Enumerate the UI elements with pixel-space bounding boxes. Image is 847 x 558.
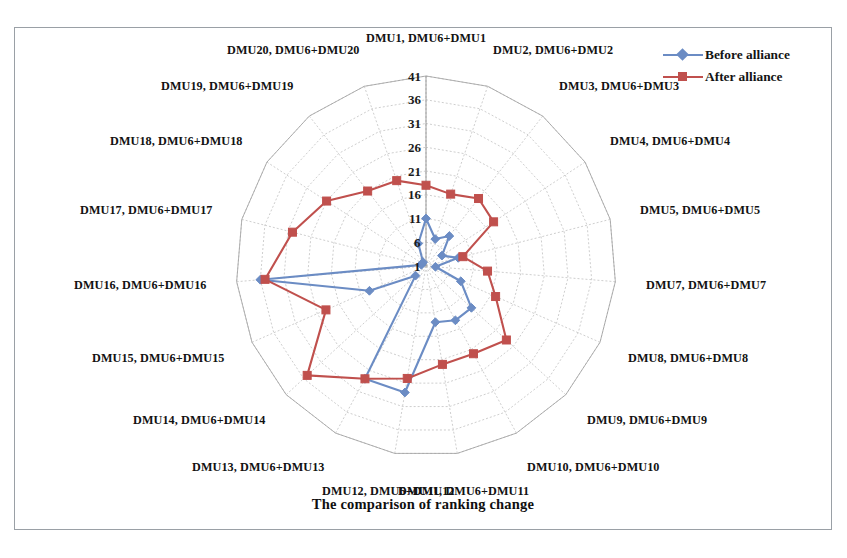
legend-label: After alliance bbox=[705, 69, 782, 85]
legend-swatch-square-icon bbox=[663, 70, 703, 84]
axis-label-15: DMU16, DMU6+DMU16 bbox=[74, 279, 207, 291]
data-point bbox=[490, 218, 498, 226]
data-point bbox=[422, 214, 431, 223]
data-point bbox=[322, 306, 330, 314]
data-point bbox=[459, 253, 467, 261]
legend-label: Before alliance bbox=[705, 47, 790, 63]
axis-label-12: DMU13, DMU6+DMU13 bbox=[192, 461, 325, 473]
data-point bbox=[431, 235, 440, 244]
data-point bbox=[400, 388, 409, 397]
data-point bbox=[365, 286, 374, 295]
radial-tick-2: 6 bbox=[414, 236, 421, 249]
axis-label-5: DMU5, DMU6+DMU5 bbox=[640, 204, 760, 216]
radial-tick-6: 26 bbox=[408, 141, 421, 154]
legend-item-2[interactable]: After alliance bbox=[663, 66, 813, 88]
axis-label-16: DMU17, DMU6+DMU17 bbox=[80, 204, 213, 216]
data-point bbox=[447, 190, 455, 198]
data-point bbox=[261, 275, 269, 283]
radial-tick-5: 21 bbox=[408, 165, 421, 178]
axis-label-19: DMU20, DMU6+DMU20 bbox=[227, 44, 360, 56]
axis-label-17: DMU18, DMU6+DMU18 bbox=[110, 135, 243, 147]
axis-label-1: DMU1, DMU6+DMU1 bbox=[366, 32, 486, 44]
radial-tick-3: 11 bbox=[409, 212, 421, 225]
axis-label-18: DMU19, DMU6+DMU19 bbox=[161, 80, 294, 92]
data-point bbox=[361, 375, 369, 383]
axis-label-14: DMU15, DMU6+DMU15 bbox=[92, 352, 225, 364]
legend-swatch-diamond-icon bbox=[663, 48, 703, 62]
data-point bbox=[492, 293, 500, 301]
data-point bbox=[445, 232, 454, 241]
data-point bbox=[469, 350, 477, 358]
data-point bbox=[431, 318, 440, 327]
axis-label-6: DMU7, DMU6+DMU7 bbox=[646, 279, 766, 291]
legend-marker-diamond-icon bbox=[676, 48, 689, 61]
data-point bbox=[288, 228, 296, 236]
data-point bbox=[502, 336, 510, 344]
data-point bbox=[403, 374, 411, 382]
radial-tick-8: 36 bbox=[408, 93, 421, 106]
radar-chart: DMU1, DMU6+DMU1DMU2, DMU6+DMU2DMU3, DMU6… bbox=[15, 28, 831, 529]
series-line-2 bbox=[265, 181, 506, 379]
data-point bbox=[364, 187, 372, 195]
data-point bbox=[475, 195, 483, 203]
axis-label-2: DMU2, DMU6+DMU2 bbox=[493, 44, 613, 56]
axis-label-9: DMU10, DMU6+DMU10 bbox=[527, 461, 660, 473]
radial-tick-4: 16 bbox=[408, 188, 421, 201]
legend: Before allianceAfter alliance bbox=[661, 42, 813, 90]
data-point bbox=[393, 177, 401, 185]
axis-label-13: DMU14, DMU6+DMU14 bbox=[133, 414, 266, 426]
grid-spoke bbox=[426, 266, 566, 395]
axis-label-8: DMU9, DMU6+DMU9 bbox=[587, 414, 707, 426]
legend-item-1[interactable]: Before alliance bbox=[663, 44, 813, 66]
data-point bbox=[422, 181, 430, 189]
chart-title: The comparison of ranking change bbox=[15, 496, 831, 513]
radar-series-layer bbox=[256, 177, 510, 397]
radial-tick-7: 31 bbox=[408, 117, 421, 130]
data-point bbox=[438, 360, 446, 368]
axis-label-7: DMU8, DMU6+DMU8 bbox=[628, 352, 748, 364]
data-point bbox=[456, 277, 465, 286]
data-point bbox=[303, 371, 311, 379]
data-point bbox=[431, 262, 440, 271]
data-point bbox=[484, 267, 492, 275]
radial-tick-9: 41 bbox=[408, 70, 421, 83]
data-point bbox=[438, 251, 447, 260]
legend-marker-square-icon bbox=[678, 72, 687, 81]
axis-label-4: DMU4, DMU6+DMU4 bbox=[610, 135, 730, 147]
figure-frame: DMU1, DMU6+DMU1DMU2, DMU6+DMU2DMU3, DMU6… bbox=[14, 27, 832, 530]
data-point bbox=[323, 197, 331, 205]
radial-tick-1: 1 bbox=[414, 260, 421, 273]
